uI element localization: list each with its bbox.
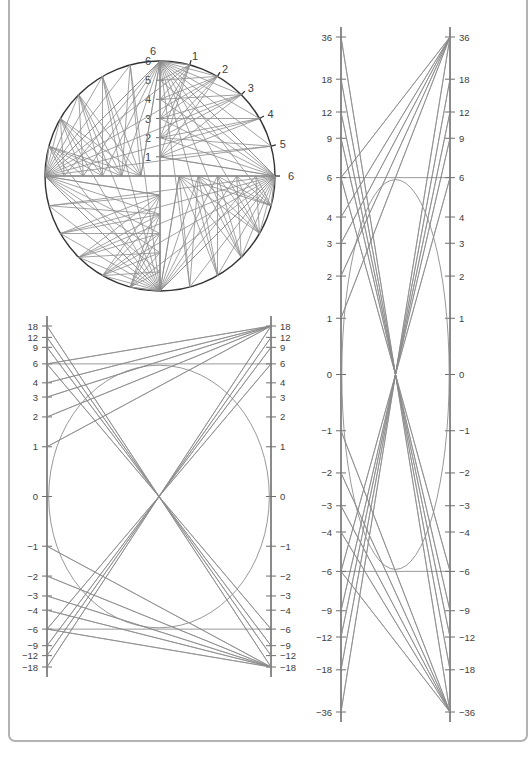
right-axis-tick-label: −18 (280, 662, 296, 673)
arc-origin-label: 6 (150, 45, 156, 57)
right-axis-tick-label: −36 (459, 707, 475, 718)
right-axis-tick-label: −1 (459, 425, 470, 436)
chord-family (45, 61, 275, 291)
left-axis-tick-label: 3 (33, 392, 38, 403)
chord-line (160, 176, 179, 291)
envelope-tangent (47, 629, 271, 667)
arc-scale-label: 6 (288, 170, 294, 182)
right-axis-tick-label: 12 (459, 107, 470, 118)
arc-scale-label: 1 (192, 50, 198, 62)
right-axis-tick-label: 6 (280, 358, 285, 369)
right-axis-tick-label: −12 (459, 632, 475, 643)
right-axis-tick-label: 3 (459, 238, 464, 249)
left-axis-tick-label: 18 (321, 74, 332, 85)
right-axis-tick-label: 4 (280, 377, 285, 388)
left-axis-tick-label: 6 (327, 172, 332, 183)
right-axis-tick-label: −6 (459, 566, 470, 577)
left-axis-tick-label: −18 (316, 664, 332, 675)
right-axis-tick-label: 9 (280, 342, 285, 353)
left-axis-tick-label: 2 (327, 271, 332, 282)
left-axis-tick-label: −4 (27, 605, 38, 616)
arc-scale-label: 4 (267, 108, 273, 120)
left-axis-tick-label: −12 (316, 632, 332, 643)
right-axis-tick-label: −9 (459, 605, 470, 616)
nomogram-18-chart: 1818121299664433221100−1−1−2−2−3−3−4−4−6… (22, 316, 296, 677)
chord-line (160, 61, 218, 76)
nomogram-36-chart: 36361818121299664433221100−1−1−2−2−3−3−4… (316, 27, 475, 722)
vertical-scale-label: 1 (145, 151, 151, 163)
left-axis-tick-label: −3 (321, 500, 332, 511)
left-axis-tick-label: 18 (27, 321, 38, 332)
left-axis-tick-label: −2 (27, 571, 38, 582)
arc-scale-tick (218, 72, 221, 76)
right-axis-tick-label: 18 (459, 74, 470, 85)
chord-line (160, 138, 271, 147)
left-axis-tick-label: 9 (33, 342, 38, 353)
arc-scale-label: 3 (248, 82, 254, 94)
right-axis-tick-label: 18 (280, 321, 291, 332)
right-axis-tick-label: −2 (280, 571, 291, 582)
right-axis-tick-label: −6 (280, 624, 291, 635)
right-axis-tick-label: −4 (459, 527, 470, 538)
chord-line (103, 276, 161, 291)
arc-scale-label: 2 (222, 63, 228, 75)
right-axis-tick-label: 4 (459, 212, 464, 223)
chord-line (122, 65, 131, 176)
left-axis-tick-label: −36 (316, 707, 332, 718)
chord-line (45, 176, 160, 214)
right-axis-tick-label: −3 (459, 500, 470, 511)
chord-line (45, 176, 160, 195)
left-axis-tick-label: 2 (33, 411, 38, 422)
left-axis-tick-label: 6 (33, 358, 38, 369)
right-axis-tick-label: −18 (459, 664, 475, 675)
right-axis-tick-label: −3 (280, 590, 291, 601)
chord-line (79, 95, 141, 176)
arc-scale-tick (271, 145, 276, 146)
arc-scale-tick (190, 60, 191, 65)
left-axis-tick-label: 0 (327, 369, 332, 380)
chord-line (45, 176, 160, 253)
chord-line (260, 176, 275, 234)
envelope-tangent (47, 326, 271, 364)
chord-line (160, 176, 237, 291)
chord-line (160, 99, 275, 176)
right-axis-tick-label: −2 (459, 467, 470, 478)
chord-line (49, 206, 160, 215)
left-axis-tick-label: −9 (321, 605, 332, 616)
right-axis-tick-label: 3 (280, 392, 285, 403)
right-axis-tick-label: 36 (459, 32, 470, 43)
left-axis-tick-label: −2 (321, 467, 332, 478)
right-axis-tick-label: 2 (280, 411, 285, 422)
left-axis-tick-label: 9 (327, 133, 332, 144)
right-axis-tick-label: −1 (280, 541, 291, 552)
right-axis-tick-label: 1 (459, 313, 464, 324)
arc-scale-tick (260, 116, 264, 119)
left-axis-tick-label: 12 (321, 107, 332, 118)
left-axis-tick-label: −4 (321, 527, 332, 538)
left-axis-tick-label: −18 (22, 662, 38, 673)
left-axis-tick-label: 3 (327, 238, 332, 249)
left-axis-tick-label: 0 (33, 491, 38, 502)
chord-line (160, 157, 275, 176)
envelope-tangent (47, 610, 271, 667)
left-axis-tick-label: 1 (327, 313, 332, 324)
chord-line (179, 176, 241, 257)
right-axis-tick-label: 0 (459, 369, 464, 380)
right-axis-tick-label: −4 (280, 605, 291, 616)
chord-line (160, 138, 275, 176)
chord-line (190, 176, 199, 287)
left-axis-tick-label: −1 (27, 541, 38, 552)
right-axis-tick-label: 1 (280, 441, 285, 452)
right-axis-tick-label: 2 (459, 271, 464, 282)
left-axis-tick-label: −12 (22, 650, 38, 661)
chord-line (160, 95, 241, 157)
right-axis-tick-label: 0 (280, 491, 285, 502)
chord-line (160, 176, 198, 291)
left-axis-tick-label: 4 (327, 212, 332, 223)
left-axis-tick-label: −6 (27, 624, 38, 635)
left-axis-tick-label: −3 (27, 590, 38, 601)
left-axis-tick-label: −1 (321, 425, 332, 436)
chord-line (122, 61, 160, 176)
